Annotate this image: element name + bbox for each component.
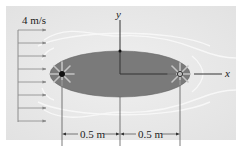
dimension-right: 0.5 m: [138, 128, 164, 140]
velocity-label: 4 m/s: [22, 14, 46, 26]
dimension-left: 0.5 m: [80, 128, 106, 140]
stagnation-point-top: [119, 50, 122, 53]
x-axis-label: x: [224, 67, 230, 79]
source-icon: [59, 71, 65, 77]
sink-icon: [177, 71, 182, 76]
rankine-oval-diagram: 4 m/s y x: [0, 0, 248, 152]
y-axis-label: y: [115, 8, 121, 20]
